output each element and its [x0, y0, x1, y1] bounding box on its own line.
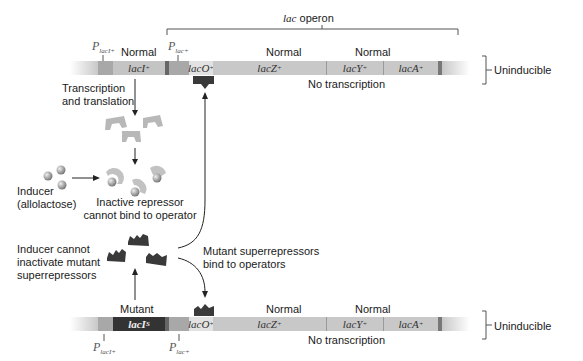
dna-strand-bottom: lacIS lacO+ lacZ+ lacY+ lacA+ — [70, 317, 470, 331]
lacz-status-bottom: Normal — [266, 303, 301, 315]
promoter-lac-bottom-label: Plac+ — [169, 341, 190, 358]
gene-lacy-bottom: lacY+ — [326, 317, 383, 331]
gene-laco-bottom: lacO+ — [189, 317, 213, 331]
gene-laca-bottom: lacA+ — [383, 317, 438, 331]
promoter-laci-region-bottom — [98, 317, 113, 331]
lacy-status-bottom: Normal — [355, 303, 390, 315]
no-transcription-bottom: No transcription — [308, 334, 385, 346]
gene-laci-mutant: lacIS — [113, 317, 165, 331]
promoter-lac-region-bottom — [169, 317, 189, 331]
promoter-laci-bottom-label: PlacI+ — [93, 341, 116, 358]
phenotype-bottom: Uninducible — [494, 320, 551, 332]
gene-lacz-bottom: lacZ+ — [213, 317, 326, 331]
laci-status-bottom: Mutant — [120, 303, 154, 315]
